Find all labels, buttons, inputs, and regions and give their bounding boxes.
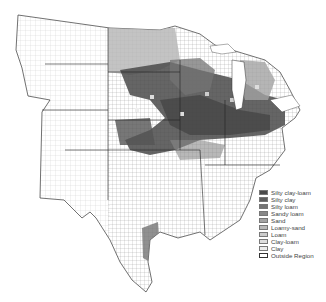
legend-swatch: [259, 204, 268, 209]
legend-item-loam: Loam: [259, 231, 325, 238]
legend-swatch: [259, 239, 268, 244]
legend-swatch: [259, 232, 268, 237]
legend-item-clay-loam: Clay-loam: [259, 238, 325, 245]
legend-item-loamy-sand: Loamy-sand: [259, 224, 325, 231]
legend-item-silty-clay: Silty clay: [259, 196, 325, 203]
legend-swatch: [259, 211, 268, 216]
legend-item-sand: Sand: [259, 217, 325, 224]
legend-swatch: [259, 246, 268, 251]
legend-swatch: [259, 253, 268, 258]
legend-item-sandy-loam: Sandy loam: [259, 210, 325, 217]
legend-swatch: [259, 225, 268, 230]
legend: Silty clay-loam Silty clay Silty loam Sa…: [259, 189, 325, 259]
legend-swatch: [259, 197, 268, 202]
legend-swatch: [259, 190, 268, 195]
legend-item-silty-loam: Silty loam: [259, 203, 325, 210]
legend-item-outside-region: Outside Region: [259, 252, 325, 259]
legend-swatch: [259, 218, 268, 223]
legend-item-silty-clay-loam: Silty clay-loam: [259, 189, 325, 196]
legend-item-clay: Clay: [259, 245, 325, 252]
